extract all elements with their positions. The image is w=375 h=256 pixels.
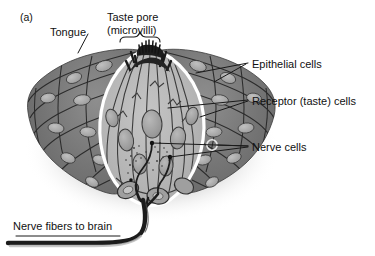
label-tongue: Tongue — [50, 26, 86, 39]
label-nerve-cells: Nerve cells — [252, 141, 306, 154]
taste-bud — [100, 52, 204, 206]
label-epithelial-cells: Epithelial cells — [252, 58, 322, 71]
label-nerve-fibers-to-brain: Nerve fibers to brain — [13, 220, 112, 233]
panel-letter: (a) — [20, 11, 33, 24]
taste-bud-diagram: (a) Tongue Taste pore (microvilli) Epith… — [0, 0, 375, 256]
label-taste-pore-microvilli: (microvilli) — [107, 24, 157, 37]
nerve-ending-dot-basal — [129, 178, 133, 182]
label-receptor-cells: Receptor (taste) cells — [252, 95, 356, 108]
label-taste-pore: Taste pore — [107, 11, 158, 24]
